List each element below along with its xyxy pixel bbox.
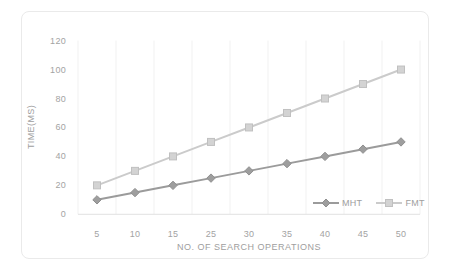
- mht-legend-marker-icon: [312, 198, 340, 208]
- legend-item-fmt: FMT: [375, 197, 424, 209]
- x-tick-label: 25: [206, 229, 217, 239]
- y-tick-label: 80: [55, 94, 66, 104]
- fmt-marker: [398, 66, 405, 73]
- fmt-marker: [170, 153, 177, 160]
- x-axis-title: NO. OF SEARCH OPERATIONS: [99, 242, 399, 252]
- mht-marker: [321, 152, 329, 160]
- x-tick-label: 5: [94, 229, 99, 239]
- chart-canvas: 02040608010012051015253035404550 TIME(MS…: [0, 0, 452, 278]
- plot-area: 02040608010012051015253035404550: [0, 0, 452, 278]
- y-tick-label: 0: [61, 209, 66, 219]
- mht-marker: [245, 167, 253, 175]
- fmt-marker: [284, 109, 291, 116]
- x-tick-label: 45: [358, 229, 369, 239]
- fmt-marker: [360, 81, 367, 88]
- legend: MHT FMT: [312, 197, 425, 209]
- fmt-marker: [322, 95, 329, 102]
- mht-marker: [207, 174, 215, 182]
- mht-marker: [169, 181, 177, 189]
- x-tick-label: 35: [282, 229, 293, 239]
- mht-marker: [359, 145, 367, 153]
- y-tick-label: 40: [55, 151, 66, 161]
- fmt-legend-marker-icon: [375, 198, 403, 208]
- y-tick-label: 120: [50, 36, 66, 46]
- y-tick-label: 100: [50, 65, 66, 75]
- fmt-marker: [94, 182, 101, 189]
- x-tick-label: 30: [244, 229, 255, 239]
- y-axis-title: TIME(MS): [25, 87, 37, 167]
- fmt-marker: [208, 138, 215, 145]
- fmt-marker: [132, 167, 139, 174]
- legend-label-mht: MHT: [342, 197, 362, 209]
- legend-label-fmt: FMT: [405, 197, 424, 209]
- mht-marker: [397, 138, 405, 146]
- x-tick-label: 15: [168, 229, 179, 239]
- x-tick-label: 10: [130, 229, 141, 239]
- y-tick-label: 60: [55, 122, 66, 132]
- mht-marker: [131, 188, 139, 196]
- y-tick-label: 20: [55, 180, 66, 190]
- mht-marker: [93, 196, 101, 204]
- mht-marker: [283, 159, 291, 167]
- x-tick-label: 50: [396, 229, 407, 239]
- fmt-marker: [246, 124, 253, 131]
- x-tick-label: 40: [320, 229, 331, 239]
- legend-item-mht: MHT: [312, 197, 362, 209]
